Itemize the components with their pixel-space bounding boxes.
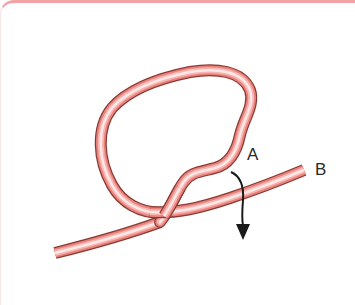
rope-standing-end	[55, 222, 160, 253]
label-a: A	[247, 146, 258, 163]
arrow-down-icon	[231, 172, 250, 240]
label-b: B	[315, 161, 326, 178]
rope-diagram	[0, 0, 355, 305]
